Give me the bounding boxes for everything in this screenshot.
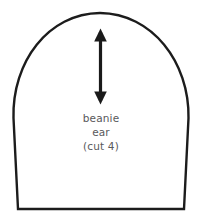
pattern-label-name: beanie [0,112,202,126]
pattern-label-cut-count: (cut 4) [0,140,202,154]
pattern-sheet: beanie ear (cut 4) [0,0,202,217]
pattern-diagram [0,0,202,217]
pattern-label-part: ear [0,126,202,140]
